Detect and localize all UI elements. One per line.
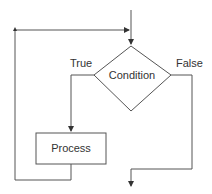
true-branch-arrow (71, 75, 94, 131)
process-label: Process (51, 142, 91, 154)
loop-corner-arrow-icon (13, 27, 17, 31)
condition-label: Condition (109, 69, 155, 81)
flowchart-canvas: Condition True Process False (0, 0, 212, 194)
false-label: False (176, 57, 203, 69)
flowchart-svg: Condition True Process False (0, 0, 212, 194)
true-label: True (70, 57, 92, 69)
